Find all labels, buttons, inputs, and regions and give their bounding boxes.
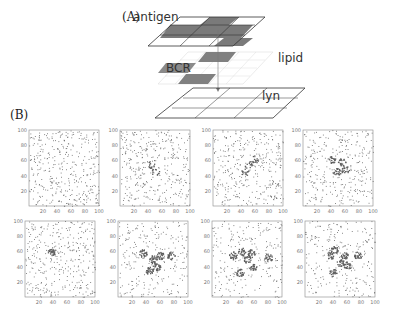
svg-text:40: 40: [17, 264, 23, 270]
svg-text:60: 60: [252, 208, 258, 214]
scatter-panel-2: 2040608010020406080100: [103, 126, 195, 218]
svg-text:80: 80: [173, 208, 179, 214]
svg-text:40: 40: [112, 173, 118, 179]
svg-text:60: 60: [344, 299, 350, 305]
antigen-label: antigen: [133, 10, 179, 24]
svg-text:20: 20: [40, 208, 46, 214]
svg-text:100: 100: [106, 218, 116, 224]
scatter-panel-4: 2040608010020406080100: [286, 126, 378, 218]
svg-text:40: 40: [204, 264, 210, 270]
svg-text:20: 20: [112, 188, 118, 194]
svg-text:80: 80: [265, 299, 271, 305]
svg-text:80: 80: [356, 208, 362, 214]
svg-text:80: 80: [295, 142, 301, 148]
svg-text:20: 20: [224, 208, 230, 214]
svg-text:80: 80: [21, 142, 27, 148]
svg-text:80: 80: [297, 233, 303, 239]
svg-text:20: 20: [316, 299, 322, 305]
svg-text:60: 60: [110, 248, 116, 254]
scatter-panel-6: 2040608010020406080100: [101, 217, 193, 309]
svg-text:60: 60: [342, 208, 348, 214]
svg-text:40: 40: [110, 264, 116, 270]
svg-text:80: 80: [17, 233, 23, 239]
svg-text:20: 20: [314, 208, 320, 214]
svg-text:80: 80: [78, 299, 84, 305]
scatter-panel-7: 2040608010020406080100: [195, 217, 287, 309]
scatter-panel-8: 2040608010020406080100: [288, 217, 380, 309]
svg-text:80: 80: [110, 233, 116, 239]
svg-text:60: 60: [297, 248, 303, 254]
svg-text:100: 100: [185, 208, 195, 214]
svg-text:100: 100: [183, 299, 193, 305]
svg-text:20: 20: [223, 299, 229, 305]
svg-text:40: 40: [330, 299, 336, 305]
svg-text:20: 20: [204, 279, 210, 285]
svg-text:60: 60: [68, 208, 74, 214]
svg-text:80: 80: [204, 233, 210, 239]
svg-text:100: 100: [108, 127, 118, 133]
svg-text:40: 40: [50, 299, 56, 305]
svg-text:40: 40: [297, 264, 303, 270]
svg-text:100: 100: [291, 127, 301, 133]
svg-text:100: 100: [13, 218, 23, 224]
svg-text:80: 80: [266, 208, 272, 214]
svg-text:20: 20: [131, 208, 137, 214]
svg-text:60: 60: [112, 157, 118, 163]
lyn-layer: [155, 88, 305, 118]
svg-text:20: 20: [21, 188, 27, 194]
svg-text:40: 40: [54, 208, 60, 214]
svg-text:100: 100: [293, 218, 303, 224]
svg-text:60: 60: [205, 157, 211, 163]
svg-text:20: 20: [129, 299, 135, 305]
svg-text:40: 40: [238, 208, 244, 214]
svg-text:40: 40: [328, 208, 334, 214]
svg-text:100: 100: [200, 218, 210, 224]
svg-text:60: 60: [295, 157, 301, 163]
svg-text:100: 100: [17, 127, 27, 133]
svg-text:80: 80: [112, 142, 118, 148]
svg-text:100: 100: [370, 299, 380, 305]
svg-text:20: 20: [36, 299, 42, 305]
svg-text:60: 60: [21, 157, 27, 163]
scatter-panel-1: 2040608010020406080100: [12, 126, 104, 218]
lipid-label: lipid: [278, 51, 303, 65]
svg-text:100: 100: [368, 208, 378, 214]
svg-text:40: 40: [237, 299, 243, 305]
svg-text:40: 40: [143, 299, 149, 305]
layer-diagram: antigen BCR lipid lyn: [0, 0, 396, 120]
svg-text:20: 20: [17, 279, 23, 285]
bcr-label: BCR: [166, 61, 191, 75]
svg-text:40: 40: [295, 173, 301, 179]
svg-text:20: 20: [297, 279, 303, 285]
svg-text:60: 60: [17, 248, 23, 254]
svg-text:60: 60: [64, 299, 70, 305]
svg-text:20: 20: [110, 279, 116, 285]
scatter-panel-3: 2040608010020406080100: [196, 126, 288, 218]
svg-text:40: 40: [145, 208, 151, 214]
svg-text:80: 80: [171, 299, 177, 305]
svg-text:80: 80: [358, 299, 364, 305]
svg-text:20: 20: [205, 188, 211, 194]
svg-text:80: 80: [82, 208, 88, 214]
svg-text:60: 60: [251, 299, 257, 305]
scatter-panel-5: 2040608010020406080100: [8, 217, 100, 309]
svg-text:40: 40: [205, 173, 211, 179]
svg-text:20: 20: [295, 188, 301, 194]
svg-text:100: 100: [90, 299, 100, 305]
svg-text:60: 60: [204, 248, 210, 254]
svg-text:100: 100: [201, 127, 211, 133]
svg-text:100: 100: [277, 299, 287, 305]
svg-text:40: 40: [21, 173, 27, 179]
lyn-label: lyn: [262, 89, 280, 103]
svg-text:60: 60: [159, 208, 165, 214]
svg-text:80: 80: [205, 142, 211, 148]
svg-text:60: 60: [157, 299, 163, 305]
